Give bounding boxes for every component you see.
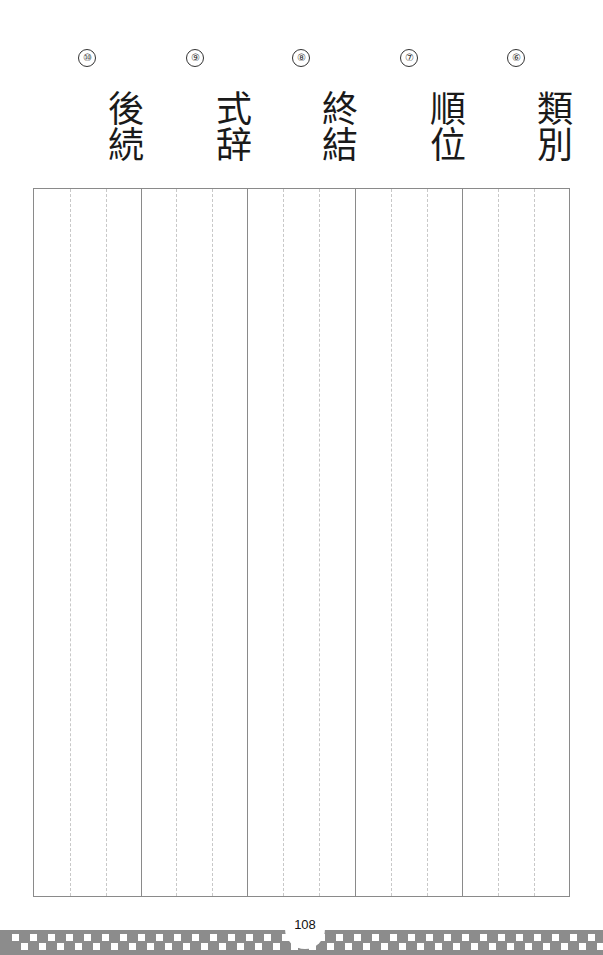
- checker-square: [489, 943, 496, 950]
- checker-square: [453, 943, 460, 950]
- checker-square: [327, 943, 334, 950]
- checker-square: [93, 943, 100, 950]
- checker-square: [138, 934, 145, 941]
- checker-square: [255, 943, 262, 950]
- column-divider: [462, 189, 463, 896]
- item-number: ⑩: [33, 49, 141, 67]
- guide-line: [391, 189, 392, 896]
- guide-line: [498, 189, 499, 896]
- checker-square: [408, 934, 415, 941]
- checker-square: [390, 934, 397, 941]
- guide-line: [534, 189, 535, 896]
- checker-square: [129, 943, 136, 950]
- checker-square: [219, 943, 226, 950]
- checker-square: [156, 934, 163, 941]
- vocabulary-word: 終結: [247, 86, 355, 166]
- checker-square: [120, 934, 127, 941]
- checker-square: [21, 943, 28, 950]
- guide-line: [106, 189, 107, 896]
- checker-square: [579, 943, 586, 950]
- checker-square: [480, 934, 487, 941]
- checker-square: [363, 943, 370, 950]
- vocabulary-word: 順位: [355, 86, 463, 166]
- page-number-badge: 108: [285, 909, 325, 949]
- checker-square: [381, 943, 388, 950]
- checker-square: [210, 934, 217, 941]
- checker-square: [516, 934, 523, 941]
- column-divider: [141, 189, 142, 896]
- checker-square: [192, 934, 199, 941]
- checker-square: [588, 934, 595, 941]
- column-divider: [355, 189, 356, 896]
- checker-square: [75, 943, 82, 950]
- guide-line: [283, 189, 284, 896]
- checker-square: [336, 934, 343, 941]
- checker-square: [39, 943, 46, 950]
- checker-square: [534, 934, 541, 941]
- column-divider: [247, 189, 248, 896]
- checker-square: [111, 943, 118, 950]
- item-number: ⑨: [141, 49, 249, 67]
- checker-square: [426, 934, 433, 941]
- checker-square: [462, 934, 469, 941]
- checker-square: [525, 943, 532, 950]
- item-number: ⑥: [462, 49, 570, 67]
- checker-square: [183, 943, 190, 950]
- guide-line: [70, 189, 71, 896]
- checker-square: [507, 943, 514, 950]
- checker-square: [84, 934, 91, 941]
- checker-square: [12, 934, 19, 941]
- vocabulary-word: 後続: [33, 86, 141, 166]
- checker-square: [66, 934, 73, 941]
- checker-square: [552, 934, 559, 941]
- checker-square: [444, 934, 451, 941]
- checker-square: [264, 934, 271, 941]
- checker-square: [417, 943, 424, 950]
- checker-square: [372, 934, 379, 941]
- checker-square: [498, 934, 505, 941]
- guide-line: [176, 189, 177, 896]
- writing-grid: [33, 188, 570, 897]
- checker-square: [102, 934, 109, 941]
- guide-line: [427, 189, 428, 896]
- checker-square: [273, 943, 280, 950]
- checker-square: [570, 934, 577, 941]
- guide-line: [319, 189, 320, 896]
- checker-square: [561, 943, 568, 950]
- item-number: ⑦: [355, 49, 463, 67]
- vocabulary-word: 類別: [462, 86, 570, 166]
- checker-square: [57, 943, 64, 950]
- checker-square: [435, 943, 442, 950]
- checker-square: [399, 943, 406, 950]
- checker-square: [354, 934, 361, 941]
- page-number: 108: [285, 909, 325, 932]
- checker-square: [201, 943, 208, 950]
- vocabulary-word: 式辞: [141, 86, 249, 166]
- checker-square: [228, 934, 235, 941]
- checker-square: [597, 943, 603, 950]
- checker-square: [543, 943, 550, 950]
- checker-square: [30, 934, 37, 941]
- guide-line: [212, 189, 213, 896]
- checker-square: [471, 943, 478, 950]
- item-number: ⑧: [247, 49, 355, 67]
- checker-square: [345, 943, 352, 950]
- checker-square: [48, 934, 55, 941]
- checker-square: [147, 943, 154, 950]
- checker-square: [174, 934, 181, 941]
- checker-square: [237, 943, 244, 950]
- checker-square: [246, 934, 253, 941]
- checker-square: [165, 943, 172, 950]
